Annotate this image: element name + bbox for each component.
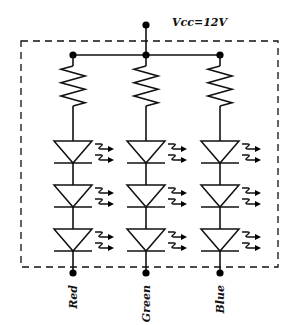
led-blue-1	[201, 141, 239, 163]
channel-label-red: Red	[67, 285, 80, 310]
light-emission-icon	[95, 232, 109, 237]
light-emission-icon	[242, 155, 256, 160]
arrowhead-icon	[255, 190, 261, 196]
arrowhead-icon	[181, 190, 187, 196]
vcc-node	[142, 21, 149, 28]
resistor-green	[134, 66, 158, 106]
arrowhead-icon	[108, 146, 114, 152]
resistor-blue	[208, 66, 232, 106]
circuit-diagram: Vcc=12V RedGreenBlue	[0, 0, 295, 325]
light-emission-icon	[95, 243, 109, 248]
light-emission-icon	[95, 188, 109, 193]
arrowhead-icon	[255, 146, 261, 152]
arrowhead-icon	[255, 234, 261, 240]
output-node-green	[142, 269, 149, 276]
arrowhead-icon	[255, 245, 261, 251]
light-emission-icon	[168, 188, 182, 193]
output-node-red	[69, 269, 76, 276]
arrowhead-icon	[181, 245, 187, 251]
light-emission-icon	[95, 144, 109, 149]
arrowhead-icon	[255, 157, 261, 163]
led-green-3	[127, 229, 165, 251]
vcc-label: Vcc=12V	[172, 16, 228, 29]
light-emission-icon	[242, 188, 256, 193]
arrowhead-icon	[181, 146, 187, 152]
led-red-2	[54, 185, 92, 207]
led-green-2	[127, 185, 165, 207]
light-emission-icon	[242, 243, 256, 248]
arrowhead-icon	[108, 190, 114, 196]
arrowhead-icon	[108, 201, 114, 207]
arrowhead-icon	[181, 201, 187, 207]
light-emission-icon	[168, 243, 182, 248]
channel-label-green: Green	[140, 285, 153, 322]
light-emission-icon	[168, 155, 182, 160]
channel-label-blue: Blue	[214, 285, 227, 314]
light-emission-icon	[168, 199, 182, 204]
light-emission-icon	[168, 232, 182, 237]
led-red-3	[54, 229, 92, 251]
led-red-1	[54, 141, 92, 163]
light-emission-icon	[242, 144, 256, 149]
led-green-1	[127, 141, 165, 163]
light-emission-icon	[242, 232, 256, 237]
led-blue-3	[201, 229, 239, 251]
led-blue-2	[201, 185, 239, 207]
arrowhead-icon	[255, 201, 261, 207]
output-node-blue	[216, 269, 223, 276]
arrowhead-icon	[181, 157, 187, 163]
light-emission-icon	[242, 199, 256, 204]
arrowhead-icon	[181, 234, 187, 240]
arrowhead-icon	[108, 157, 114, 163]
resistor-red	[61, 66, 85, 106]
arrowhead-icon	[108, 245, 114, 251]
light-emission-icon	[168, 144, 182, 149]
arrowhead-icon	[108, 234, 114, 240]
light-emission-icon	[95, 155, 109, 160]
light-emission-icon	[95, 199, 109, 204]
